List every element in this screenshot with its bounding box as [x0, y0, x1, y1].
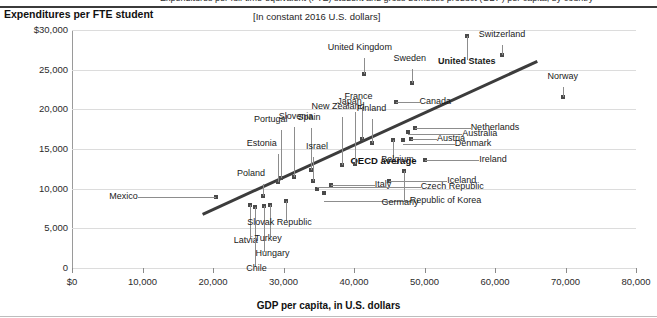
x-tick-label: 60,000 — [480, 276, 509, 287]
x-tick-label: 20,000 — [198, 276, 227, 287]
x-tick — [636, 268, 637, 273]
leader-line — [364, 58, 365, 74]
x-tick — [425, 268, 426, 273]
leader-line — [138, 197, 216, 198]
leader-line — [403, 144, 455, 145]
data-point-marker[interactable] — [322, 191, 326, 195]
gridline — [72, 228, 636, 229]
data-point-marker[interactable] — [401, 138, 405, 142]
plot-area: OECD averageMexicoLatviaChileHungaryPola… — [72, 30, 636, 268]
data-point-label: Canada — [420, 96, 452, 106]
leader-line — [563, 87, 564, 97]
x-tick-label: 50,000 — [410, 276, 439, 287]
x-tick — [495, 268, 496, 273]
data-point-label: Slovak Republic — [247, 217, 312, 227]
x-tick — [284, 268, 285, 273]
data-point-label: Republic of Korea — [410, 195, 482, 205]
x-tick-label: 40,000 — [339, 276, 368, 287]
leader-line — [396, 102, 420, 103]
data-point-label: Iceland — [447, 175, 476, 185]
data-point-label: Poland — [237, 168, 265, 178]
leader-line — [411, 139, 437, 140]
y-tick-label: $30,000 — [34, 24, 68, 35]
x-tick-label: 70,000 — [551, 276, 580, 287]
x-tick-label: 10,000 — [128, 276, 157, 287]
x-tick — [143, 268, 144, 273]
bottom-divider — [0, 316, 657, 317]
x-axis-title: GDP per capita, in U.S. dollars — [0, 300, 657, 311]
gridline — [72, 30, 636, 31]
data-point-label: Australia — [462, 128, 497, 138]
leader-line — [355, 112, 356, 164]
data-point-label: United Kingdom — [328, 42, 392, 52]
leader-line — [294, 127, 295, 177]
data-point-label: Spain — [297, 112, 320, 122]
leader-line — [372, 119, 373, 143]
y-tick-label: 5,000 — [44, 222, 68, 233]
data-point-label: Denmark — [455, 138, 492, 148]
y-tick-label: 10,000 — [39, 183, 68, 194]
x-tick — [72, 268, 73, 273]
chart-page: Expenditures per full-time-equivalent (F… — [0, 0, 657, 318]
leader-line — [412, 69, 413, 83]
data-point-label: Turkey — [255, 233, 282, 243]
gridline — [72, 189, 636, 190]
x-tick-label: 30,000 — [269, 276, 298, 287]
data-point-label: Switzerland — [479, 29, 526, 39]
y-tick-label: 20,000 — [39, 103, 68, 114]
data-point-label: Ireland — [479, 154, 507, 164]
leader-line — [264, 206, 265, 252]
x-tick — [566, 268, 567, 273]
leader-line — [342, 117, 343, 165]
data-point-label: Finland — [357, 103, 387, 113]
y-tick-label: 0 — [63, 262, 68, 273]
y-tick-label: 25,000 — [39, 64, 68, 75]
data-point-label: Israel — [306, 141, 328, 151]
figure-title-cropped: Expenditures per full-time-equivalent (F… — [160, 0, 657, 5]
x-tick — [213, 268, 214, 273]
data-point-label: Belgium — [381, 154, 414, 164]
x-tick — [354, 268, 355, 273]
data-point-label: Estonia — [247, 138, 277, 148]
data-point-label: Hungary — [255, 248, 289, 258]
data-point-label: Norway — [547, 71, 578, 81]
y-axis-title: Expenditures per FTE student — [4, 8, 153, 20]
leader-line — [313, 157, 314, 181]
data-point-label: United States — [438, 56, 496, 66]
leader-line — [331, 185, 375, 186]
data-point-label: Sweden — [394, 53, 427, 63]
y-tick-label: 15,000 — [39, 143, 68, 154]
chart-subtitle: [In constant 2016 U.S. dollars] — [253, 11, 380, 22]
leader-line — [502, 45, 503, 55]
gridline — [72, 149, 636, 150]
leader-line — [263, 184, 264, 196]
data-point-label: Germany — [382, 197, 419, 207]
x-tick-label: 80,000 — [621, 276, 650, 287]
data-point-label: Chile — [246, 263, 267, 273]
data-point-label: France — [344, 91, 372, 101]
leader-line — [281, 130, 282, 178]
leader-line — [425, 160, 479, 161]
x-tick-label: $0 — [67, 276, 78, 287]
y-axis-tick-labels: 05,00010,00015,00020,00025,000$30,000 — [0, 30, 68, 268]
leader-line — [389, 181, 447, 182]
data-point-label: Mexico — [109, 191, 138, 201]
